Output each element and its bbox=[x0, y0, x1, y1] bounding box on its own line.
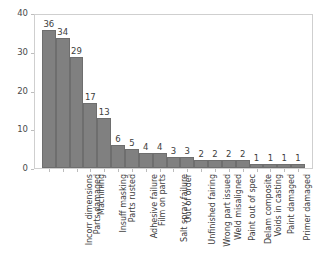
bar-holder: 36 bbox=[42, 30, 56, 168]
x-axis-tick-group: Weld misaligned bbox=[194, 169, 208, 263]
bar-value-label: 36 bbox=[43, 19, 54, 29]
y-tick-label: 40 bbox=[17, 8, 28, 19]
x-axis-tick-group: Parts damaged bbox=[56, 169, 70, 263]
x-tick-label-wrapper: Parts rusted bbox=[128, 126, 137, 174]
x-tick-mark bbox=[132, 169, 133, 172]
x-tick-mark bbox=[298, 169, 299, 172]
x-tick-mark bbox=[104, 169, 105, 172]
x-tick-label-wrapper: Out of order bbox=[184, 125, 193, 174]
x-tick-mark bbox=[173, 169, 174, 172]
bar-value-label: 17 bbox=[85, 92, 96, 102]
x-axis-tick-group: Parts rusted bbox=[97, 169, 111, 263]
bar-value-label: 2 bbox=[198, 149, 203, 159]
y-axis: 010203040 bbox=[0, 14, 34, 169]
x-axis-tick-group: Powdery alodine bbox=[291, 169, 305, 263]
bar-value-label: 34 bbox=[57, 27, 68, 37]
x-axis-tick-group: Paint damaged bbox=[250, 169, 264, 263]
bar-rect[interactable] bbox=[56, 38, 70, 168]
x-tick-label-wrapper: Voids in casting bbox=[274, 111, 283, 174]
x-tick-mark bbox=[90, 169, 91, 172]
x-tick-label-wrapper: Machining bbox=[97, 133, 106, 174]
x-tick-mark bbox=[243, 169, 244, 172]
bar-item[interactable]: 34 bbox=[56, 15, 70, 168]
x-tick-mark bbox=[187, 169, 188, 172]
x-axis-tick-group: Salt spray failure bbox=[139, 169, 153, 263]
bar-holder: 2 bbox=[194, 160, 208, 168]
x-tick-mark bbox=[49, 169, 50, 172]
x-tick-mark bbox=[146, 169, 147, 172]
x-axis-tick-group: Unfinished fairing bbox=[167, 169, 181, 263]
x-axis-tick-group: Film on parts bbox=[125, 169, 139, 263]
x-axis-tick-group: Adhesive failure bbox=[111, 169, 125, 263]
y-tick-label: 20 bbox=[17, 86, 28, 97]
bar-value-label: 4 bbox=[143, 142, 148, 152]
x-axis-tick-group: Paint out of spec bbox=[208, 169, 222, 263]
x-tick-mark bbox=[284, 169, 285, 172]
x-axis-leading-pad bbox=[35, 169, 42, 263]
x-tick-mark bbox=[229, 169, 230, 172]
bar-item[interactable]: 29 bbox=[70, 15, 84, 168]
bar-item[interactable]: 2 bbox=[194, 15, 208, 168]
x-axis-tick-group: Out of order bbox=[153, 169, 167, 263]
x-tick-mark bbox=[77, 169, 78, 172]
bar-item[interactable]: 36 bbox=[42, 15, 56, 168]
x-tick-label-wrapper: Paint damaged bbox=[287, 114, 296, 174]
x-tick-label-wrapper: Primer damaged bbox=[304, 108, 313, 175]
x-tick-mark bbox=[118, 169, 119, 172]
x-axis-tick-group: Wrong part issued bbox=[180, 169, 194, 263]
bar-holder: 3 bbox=[167, 157, 181, 168]
x-tick-label-wrapper: Delam composite bbox=[264, 104, 273, 174]
x-axis-tick-group: Delam composite bbox=[222, 169, 236, 263]
bar-rect[interactable] bbox=[42, 30, 56, 168]
x-axis-tick-group: Insuff masking bbox=[83, 169, 97, 263]
x-axis-tick-group: Machining bbox=[70, 169, 84, 263]
bar-value-label: 29 bbox=[71, 46, 82, 56]
bar-rect[interactable] bbox=[194, 160, 208, 168]
x-tick-label-wrapper: Unfinished fairing bbox=[209, 103, 218, 174]
bar-holder: 34 bbox=[56, 38, 70, 168]
x-tick-mark bbox=[270, 169, 271, 172]
x-axis-tick-group: Primer damaged bbox=[263, 169, 277, 263]
x-tick-label-wrapper: Film on parts bbox=[158, 122, 167, 174]
x-tick-label-wrapper: Wrong part issued bbox=[224, 101, 233, 174]
x-tick-label-wrapper: Weld misaligned bbox=[234, 108, 243, 174]
x-axis-tick-group: Incorr dimensions bbox=[42, 169, 56, 263]
x-tick-mark bbox=[201, 169, 202, 172]
bar-leading-pad bbox=[35, 15, 42, 168]
x-tick-mark bbox=[160, 169, 161, 172]
y-tick-mark bbox=[31, 169, 34, 170]
x-tick-mark bbox=[257, 169, 258, 172]
bar-value-label: 1 bbox=[295, 153, 300, 163]
bar-item[interactable]: 3 bbox=[167, 15, 181, 168]
x-tick-mark bbox=[215, 169, 216, 172]
y-tick-label: 0 bbox=[23, 163, 28, 174]
bar-rect[interactable] bbox=[70, 57, 84, 168]
x-tick-mark bbox=[63, 169, 64, 172]
y-tick-label: 30 bbox=[17, 47, 28, 58]
bar-chart-figure: 010203040 363429171365443322221111 Incor… bbox=[0, 0, 322, 263]
x-axis: Incorr dimensionsParts damagedMachiningI… bbox=[35, 169, 312, 263]
y-tick-label: 10 bbox=[17, 124, 28, 135]
bar-rect[interactable] bbox=[167, 157, 181, 168]
x-axis-tick-group: Improper procedure bbox=[277, 169, 291, 263]
x-tick-label-wrapper: Paint out of spec bbox=[248, 107, 257, 174]
x-axis-trailing-pad bbox=[305, 169, 312, 263]
bar-holder: 29 bbox=[70, 57, 84, 168]
x-axis-tick-group: Voids in casting bbox=[236, 169, 250, 263]
bar-value-label: 3 bbox=[171, 146, 176, 156]
